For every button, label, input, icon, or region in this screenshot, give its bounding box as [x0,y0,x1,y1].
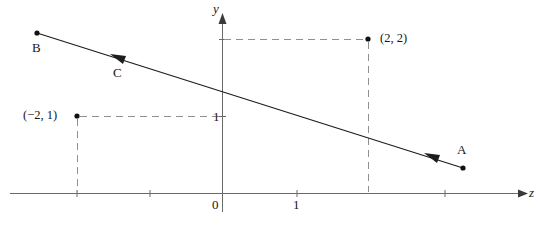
line-direction-arrowhead-left [110,54,126,64]
point-c-label: C [113,66,122,79]
main-line-group [37,33,463,168]
figure-canvas [0,0,540,225]
point-a-label: A [457,143,466,156]
y-tick-1-label: 1 [213,110,220,123]
point-b-label: B [32,41,41,54]
y-axis-group [219,13,227,212]
coord-label-neg2-1: (−2, 1) [23,109,57,122]
x-tick-1-label: 1 [293,198,300,211]
line-BA [37,33,463,168]
y-axis-arrowhead [219,13,227,24]
coord-label-2-2: (2, 2) [380,32,407,45]
dot-point-neg2-1 [74,113,79,118]
x-axis-label: z [529,186,534,199]
dot-point-2-2 [365,36,370,41]
dot-point-a [460,165,465,170]
coordinate-plane-figure: y z 0 1 1 B C A (2, 2) (−2, 1) [0,0,540,225]
x-axis-group [10,190,528,198]
x-axis-arrowhead [518,190,528,198]
origin-label: 0 [212,198,219,211]
dot-point-b [34,30,39,35]
y-axis-label: y [213,2,219,15]
line-direction-arrowhead-right [424,153,440,163]
